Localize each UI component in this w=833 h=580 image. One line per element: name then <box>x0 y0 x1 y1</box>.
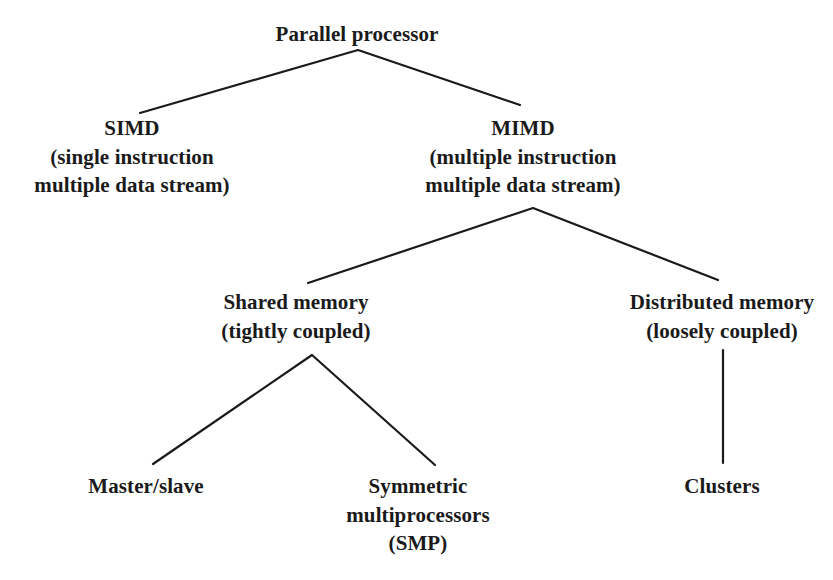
node-sublabel: multiprocessors <box>346 501 489 530</box>
node-simd: SIMD (single instruction multiple data s… <box>34 114 229 200</box>
node-master-slave: Master/slave <box>88 472 204 501</box>
node-clusters: Clusters <box>684 472 759 501</box>
node-sublabel: (loosely coupled) <box>630 317 814 346</box>
node-label: SIMD <box>34 114 229 143</box>
node-label: Clusters <box>684 472 759 501</box>
node-sublabel: multiple data stream) <box>34 171 229 200</box>
node-sublabel: multiple data stream) <box>425 171 620 200</box>
edge-shared-to-master-slave-and-smp <box>153 355 435 465</box>
node-sublabel: (single instruction <box>34 143 229 172</box>
node-label: Distributed memory <box>630 288 814 317</box>
node-smp: Symmetric multiprocessors (SMP) <box>346 472 489 558</box>
node-parallel-processor: Parallel processor <box>276 20 439 49</box>
node-label: MIMD <box>425 114 620 143</box>
node-distributed-memory: Distributed memory (loosely coupled) <box>630 288 814 345</box>
node-mimd: MIMD (multiple instruction multiple data… <box>425 114 620 200</box>
edge-mimd-to-shared-and-distributed <box>308 208 718 283</box>
node-label: Parallel processor <box>276 20 439 49</box>
edge-root-to-simd-and-mimd <box>140 50 520 113</box>
node-shared-memory: Shared memory (tightly coupled) <box>221 288 370 345</box>
node-label: Master/slave <box>88 472 204 501</box>
node-sublabel: (SMP) <box>346 529 489 558</box>
node-label: Shared memory <box>221 288 370 317</box>
node-sublabel: (multiple instruction <box>425 143 620 172</box>
node-label: Symmetric <box>346 472 489 501</box>
node-sublabel: (tightly coupled) <box>221 317 370 346</box>
